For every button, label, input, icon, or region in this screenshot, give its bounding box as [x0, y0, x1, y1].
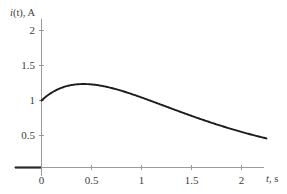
y-tick-label-2: 2	[30, 24, 36, 36]
chart-figure: 2 1.5 1 0.5 0 0.5 1 1.5 2 i(t), A t, s	[0, 0, 287, 194]
x-axis-title-unit: s	[274, 173, 278, 184]
plot-background	[0, 0, 287, 194]
y-axis-title-unit: A	[28, 7, 36, 18]
current-vs-time-plot: 2 1.5 1 0.5 0 0.5 1 1.5 2 i(t), A t, s	[0, 0, 287, 194]
x-tick-label-0.5: 0.5	[85, 174, 99, 186]
x-tick-label-1.5: 1.5	[185, 174, 199, 186]
x-tick-label-1: 1	[139, 174, 145, 186]
y-tick-label-1.5: 1.5	[21, 59, 35, 71]
y-tick-label-1: 1	[30, 94, 36, 106]
y-axis-title: i(t), A	[10, 7, 36, 19]
x-axis-title: t, s	[266, 173, 278, 184]
y-tick-label-0.5: 0.5	[21, 129, 35, 141]
y-axis-title-arg: (t)	[13, 7, 23, 19]
x-tick-label-2: 2	[239, 174, 245, 186]
x-tick-label-0: 0	[39, 174, 45, 186]
